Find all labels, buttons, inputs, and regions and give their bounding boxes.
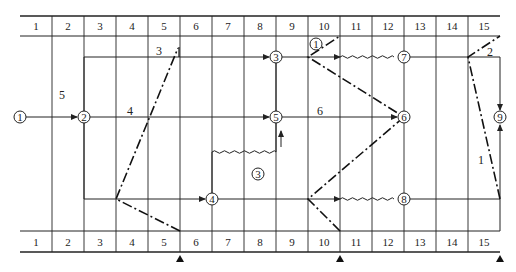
svg-text:4: 4 — [129, 236, 135, 248]
svg-text:11: 11 — [351, 20, 362, 32]
svg-text:13: 13 — [415, 236, 427, 248]
svg-text:8: 8 — [257, 236, 263, 248]
top-column-labels: 1 2 3 4 5 6 7 8 9 10 11 12 13 14 15 — [33, 20, 490, 32]
network-diagram: 1 2 3 4 5 6 7 8 9 10 11 12 13 14 15 1 2 … — [0, 0, 516, 272]
svg-text:9: 9 — [289, 236, 295, 248]
svg-text:9: 9 — [497, 111, 503, 123]
svg-text:1: 1 — [17, 111, 23, 123]
svg-text:2: 2 — [81, 111, 87, 123]
svg-text:12: 12 — [383, 20, 394, 32]
svg-text:15: 15 — [479, 20, 491, 32]
svg-text:1: 1 — [313, 38, 319, 50]
svg-text:3: 3 — [273, 51, 279, 63]
node-labels: 1 2 3 4 5 6 7 8 9 — [17, 51, 503, 205]
svg-text:8: 8 — [401, 193, 407, 205]
bottom-column-labels: 1 2 3 4 5 6 7 8 9 10 11 12 13 14 15 — [33, 236, 490, 248]
svg-text:13: 13 — [415, 20, 427, 32]
svg-text:2: 2 — [487, 45, 493, 59]
svg-text:5: 5 — [273, 111, 279, 123]
triangle-markers — [176, 255, 504, 262]
svg-text:3: 3 — [97, 236, 103, 248]
svg-text:7: 7 — [225, 20, 231, 32]
svg-text:2: 2 — [65, 20, 71, 32]
svg-text:3: 3 — [156, 44, 162, 58]
svg-text:7: 7 — [401, 51, 407, 63]
svg-text:15: 15 — [479, 236, 491, 248]
svg-text:6: 6 — [193, 236, 199, 248]
nodes — [14, 51, 506, 205]
svg-text:5: 5 — [161, 20, 167, 32]
svg-text:9: 9 — [289, 20, 295, 32]
svg-text:2: 2 — [65, 236, 71, 248]
svg-text:14: 14 — [447, 236, 459, 248]
svg-text:10: 10 — [319, 236, 331, 248]
svg-text:10: 10 — [319, 20, 331, 32]
svg-text:5: 5 — [161, 236, 167, 248]
svg-text:8: 8 — [257, 20, 263, 32]
svg-text:3: 3 — [97, 20, 103, 32]
svg-text:4: 4 — [209, 193, 215, 205]
activity-arrows — [26, 56, 500, 231]
svg-text:1: 1 — [33, 236, 39, 248]
svg-text:4: 4 — [127, 104, 133, 118]
svg-text:14: 14 — [447, 20, 459, 32]
svg-text:6: 6 — [317, 104, 323, 118]
svg-text:1: 1 — [33, 20, 39, 32]
svg-text:11: 11 — [351, 236, 362, 248]
svg-text:1: 1 — [478, 153, 484, 167]
svg-text:6: 6 — [401, 111, 407, 123]
svg-text:12: 12 — [383, 236, 394, 248]
svg-text:3: 3 — [255, 168, 261, 180]
svg-text:4: 4 — [129, 20, 135, 32]
svg-text:7: 7 — [225, 236, 231, 248]
check-markers: 1 3 — [252, 38, 322, 180]
svg-text:6: 6 — [193, 20, 199, 32]
svg-text:5: 5 — [59, 88, 65, 102]
